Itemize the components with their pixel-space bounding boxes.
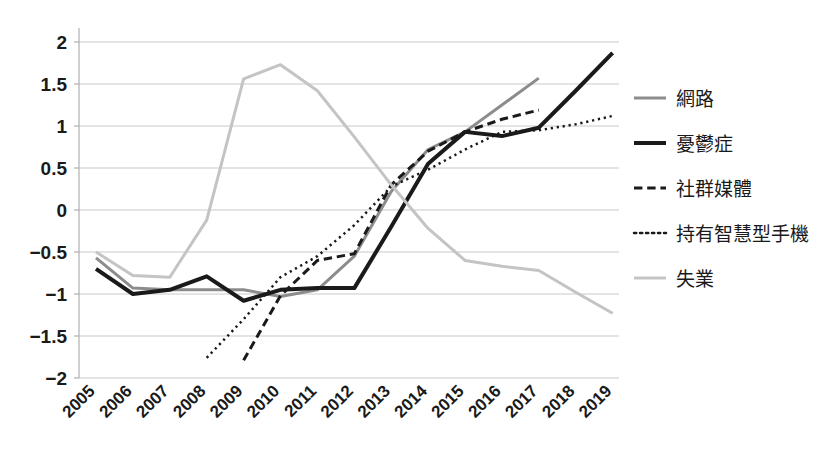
x-axis-tick-label: 2014 (391, 381, 432, 422)
y-axis-tick-label: −2 (45, 368, 67, 389)
y-axis-tick-labels: 21.510.50−0.5−1−1.5−2 (29, 32, 67, 389)
x-axis-tick-label: 2008 (169, 381, 209, 421)
y-axis-tick-label: 0.5 (41, 158, 68, 179)
x-axis-tick-label: 2018 (538, 381, 578, 421)
x-axis-tick-label: 2012 (317, 381, 357, 421)
x-axis-tick-label: 2007 (132, 381, 172, 421)
x-axis-tick-label: 2011 (281, 381, 321, 421)
x-axis-tick-label: 2013 (354, 381, 394, 421)
x-axis-tick-label: 2009 (206, 381, 246, 421)
series-line-2 (96, 53, 613, 301)
x-axis-tick-label: 2010 (243, 381, 283, 421)
series-line-3 (244, 110, 539, 360)
legend-label-5: 失業 (676, 269, 714, 290)
series-line-5 (96, 65, 613, 314)
x-axis-tick-label: 2006 (96, 381, 136, 421)
chart-canvas: 21.510.50−0.5−1−1.5−2 200520062007200820… (0, 0, 839, 461)
y-axis-tick-label: 0 (56, 200, 67, 221)
x-axis-tick-label: 2019 (575, 381, 615, 421)
x-axis-tick-label: 2017 (501, 381, 541, 421)
x-axis-tick-label: 2016 (465, 381, 505, 421)
legend-label-4: 持有智慧型手機 (676, 224, 809, 245)
legend-label-3: 社群媒體 (676, 179, 752, 200)
y-axis-tick-label: 1 (56, 116, 67, 137)
x-axis-tick-labels: 2005200620072008200920102011201220132014… (59, 381, 616, 422)
chart-legend: 網路憂鬱症社群媒體持有智慧型手機失業 (634, 89, 809, 290)
axes (74, 28, 79, 378)
line-chart: 21.510.50−0.5−1−1.5−2 200520062007200820… (0, 0, 839, 461)
x-axis-tick-label: 2015 (428, 381, 468, 421)
gridlines (79, 42, 619, 378)
y-axis-tick-label: −1 (45, 284, 67, 305)
y-axis-tick-label: −1.5 (29, 326, 67, 347)
legend-label-1: 網路 (676, 89, 714, 110)
y-axis-tick-label: 1.5 (41, 74, 68, 95)
series-line-4 (207, 116, 613, 358)
data-series (96, 53, 613, 360)
series-line-1 (96, 78, 539, 296)
legend-label-2: 憂鬱症 (676, 134, 733, 155)
y-axis-tick-label: −0.5 (29, 242, 67, 263)
y-axis-tick-label: 2 (56, 32, 67, 53)
